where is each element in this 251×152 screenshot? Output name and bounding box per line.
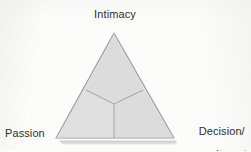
label-decision-line2: commitment	[186, 149, 247, 152]
label-decision-commitment: Decision/ commitment	[186, 114, 247, 151]
figure-container: Intimacy Passion Decision/ commitment	[0, 0, 251, 151]
label-passion: Passion	[5, 128, 45, 140]
label-intimacy: Intimacy	[89, 9, 141, 21]
label-decision-line1: Decision/	[199, 125, 245, 137]
triangle-drop-shadow-soft	[61, 143, 178, 145]
